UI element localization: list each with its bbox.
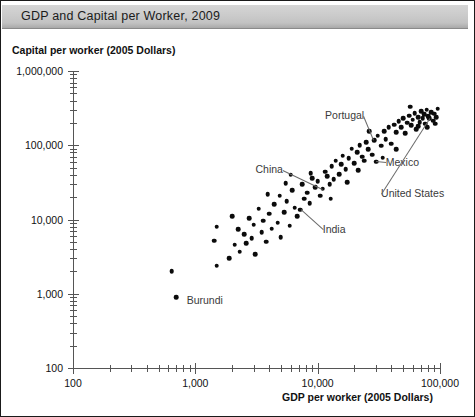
annotation-label-burundi: Burundi — [187, 294, 223, 306]
y-axis-minor-tick — [70, 346, 77, 347]
y-axis-minor-tick — [70, 297, 77, 298]
scatter-point — [260, 230, 265, 235]
scatter-point — [174, 295, 179, 300]
scatter-point — [310, 176, 315, 181]
y-axis-minor-tick — [70, 223, 77, 224]
scatter-point — [307, 201, 312, 206]
x-axis-minor-tick — [190, 365, 191, 372]
y-axis-minor-tick — [70, 93, 77, 94]
scatter-point — [340, 154, 345, 159]
scatter-point — [401, 116, 406, 121]
scatter-point — [265, 192, 270, 197]
scatter-point — [272, 202, 277, 207]
x-axis-minor-tick — [176, 365, 177, 372]
x-axis-major-tick — [195, 363, 196, 374]
scatter-point — [277, 193, 282, 198]
x-axis-line — [73, 368, 441, 369]
scatter-plot-area: 1001,00010,000100,0001,000,0001001,00010… — [73, 71, 440, 368]
scatter-point — [344, 167, 349, 172]
scatter-point — [318, 193, 323, 198]
scatter-point — [411, 118, 416, 123]
scatter-point — [434, 115, 439, 120]
scatter-point — [394, 147, 399, 152]
scatter-point — [282, 210, 287, 215]
scatter-point — [290, 188, 295, 193]
y-axis-major-tick — [68, 294, 79, 295]
y-axis-major-tick — [68, 220, 79, 221]
x-axis-tick-label: 1,000 — [182, 377, 208, 389]
y-axis-minor-tick — [70, 184, 77, 185]
scatter-point — [300, 182, 305, 187]
x-axis-minor-tick — [391, 365, 392, 372]
scatter-point — [375, 133, 380, 138]
scatter-point — [227, 256, 232, 261]
scatter-point — [269, 226, 274, 231]
scatter-point — [403, 131, 408, 136]
y-axis-title: Capital per worker (2005 Dollars) — [12, 44, 175, 56]
y-axis-minor-tick — [70, 227, 77, 228]
y-axis-minor-tick — [70, 83, 77, 84]
scatter-point — [379, 144, 384, 149]
x-axis-tick-label: 100 — [64, 377, 82, 389]
scatter-point — [357, 143, 362, 148]
x-axis-minor-tick — [168, 365, 169, 372]
scatter-point — [399, 125, 404, 130]
scatter-point — [352, 161, 357, 166]
y-axis-minor-tick — [70, 168, 77, 169]
scatter-point — [261, 219, 266, 224]
x-axis-minor-tick — [232, 365, 233, 372]
scatter-point — [392, 122, 397, 127]
scatter-point — [287, 224, 292, 229]
scatter-point — [389, 141, 394, 146]
y-axis-minor-tick — [70, 110, 77, 111]
annotation-label-united-states: United States — [381, 187, 444, 199]
scatter-point — [433, 121, 438, 126]
scatter-point — [251, 222, 256, 227]
y-axis-tick-label: 100,000 — [25, 139, 63, 151]
x-axis-minor-tick — [269, 365, 270, 372]
scatter-point — [232, 242, 237, 247]
scatter-point — [408, 104, 413, 109]
x-axis-minor-tick — [428, 365, 429, 372]
scatter-point — [215, 224, 220, 229]
scatter-point — [264, 240, 269, 245]
x-axis-minor-tick — [110, 365, 111, 372]
y-axis-minor-tick — [70, 231, 77, 232]
scatter-point — [244, 241, 249, 246]
scatter-point — [386, 125, 391, 130]
scatter-point — [256, 206, 261, 211]
scatter-point — [355, 150, 360, 155]
scatter-point — [364, 140, 369, 145]
scatter-point — [236, 227, 241, 232]
annotation-label-china: China — [255, 163, 282, 175]
scatter-point — [325, 174, 330, 179]
y-axis-minor-tick — [70, 74, 77, 75]
x-axis-major-tick — [73, 363, 74, 374]
y-axis-minor-tick — [70, 310, 77, 311]
y-axis-tick-label: 1,000,000 — [16, 65, 63, 77]
y-axis-minor-tick — [70, 78, 77, 79]
y-axis-minor-tick — [70, 316, 77, 317]
y-axis-tick-label: 10,000 — [31, 214, 63, 226]
scatter-point — [169, 269, 174, 274]
x-axis-minor-tick — [159, 365, 160, 372]
y-axis-minor-tick — [70, 162, 77, 163]
scatter-point — [267, 211, 272, 216]
scatter-point — [275, 221, 280, 226]
scatter-point — [247, 216, 252, 221]
scatter-point — [285, 199, 290, 204]
annotation-leader-line — [300, 209, 323, 230]
scatter-point — [347, 156, 352, 161]
y-axis-minor-tick — [70, 101, 77, 102]
scatter-point — [215, 263, 220, 268]
x-axis-major-tick — [440, 363, 441, 374]
scatter-point — [327, 182, 332, 187]
y-axis-minor-tick — [70, 271, 77, 272]
scatter-point — [302, 197, 307, 202]
scatter-point — [284, 181, 289, 186]
scatter-point — [345, 180, 350, 185]
scatter-point — [382, 129, 387, 134]
scatter-point — [339, 162, 344, 167]
y-axis-minor-tick — [70, 301, 77, 302]
x-axis-minor-tick — [131, 365, 132, 372]
